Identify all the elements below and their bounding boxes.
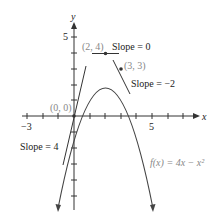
label-slope-neg2: Slope = −2 — [131, 78, 175, 89]
curve-arrow-left — [56, 204, 62, 212]
chart: y x −3 5 5 (2, 4) Slope = 0 (3, 3) Slope… — [0, 0, 220, 223]
y-axis-arrow — [71, 22, 77, 29]
label-point-3-3: (3, 3) — [124, 60, 146, 72]
x-axis-label: x — [201, 111, 207, 122]
tick-label-5-x: 5 — [149, 121, 154, 132]
point-origin — [72, 114, 76, 118]
y-axis-label: y — [70, 11, 76, 22]
x-axis-arrow — [193, 113, 200, 119]
label-slope-4: Slope = 4 — [20, 141, 58, 152]
curve-arrow-right — [150, 204, 156, 212]
label-point-vertex: (2, 4) — [82, 41, 104, 53]
parabola-curve — [59, 88, 153, 206]
tick-label-5-y: 5 — [63, 31, 68, 42]
label-slope-0: Slope = 0 — [112, 41, 150, 52]
point-vertex — [104, 52, 108, 56]
point-3-3 — [119, 67, 123, 71]
label-point-origin: (0, 0) — [50, 102, 72, 114]
x-axis — [22, 113, 198, 119]
function-label: f(x) = 4x − x² — [150, 157, 205, 169]
tick-label-neg3: −3 — [21, 121, 32, 132]
